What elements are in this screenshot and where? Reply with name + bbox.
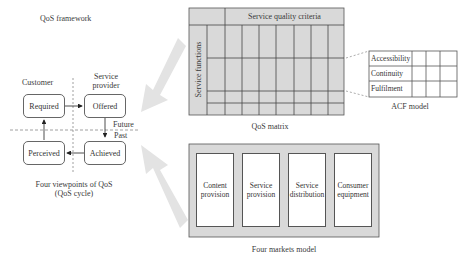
market-label-line2: equipment	[337, 190, 369, 199]
node-offered: Offered	[84, 94, 126, 118]
qos-matrix-outline	[189, 8, 344, 115]
matrix-row-header: Service functions	[194, 30, 203, 110]
market-label-line1: Service	[247, 181, 275, 190]
cycle-caption-line1: Four viewpoints of QoS	[24, 180, 124, 189]
acf-caption: ACF model	[380, 102, 440, 111]
node-required: Required	[23, 94, 65, 118]
market-label-line2: provision	[201, 190, 229, 199]
matrix-to-framework-arrow	[141, 38, 186, 112]
market-content-provision: Contentprovision	[196, 153, 234, 227]
qos-framework-diagram: QoS framework Customer Service provider …	[0, 0, 472, 257]
framework-title: QoS framework	[40, 14, 91, 23]
provider-label: Service provider	[88, 72, 124, 90]
past-label: Past	[114, 131, 127, 140]
market-service-distribution: Servicedistribution	[288, 153, 326, 227]
matrix-header: Service quality criteria	[225, 12, 344, 21]
customer-label: Customer	[22, 78, 53, 87]
market-label-line1: Consumer	[337, 181, 369, 190]
market-service-provision: Serviceprovision	[242, 153, 280, 227]
node-achieved: Achieved	[84, 141, 126, 165]
acf-row-continuity: Continuity	[371, 69, 403, 78]
acf-row-accessibility: Accessibility	[371, 54, 410, 63]
market-label-line2: distribution	[290, 190, 325, 199]
market-label-line1: Service	[290, 181, 325, 190]
matrix-caption: QoS matrix	[240, 122, 300, 131]
node-perceived: Perceived	[23, 141, 65, 165]
cycle-caption: Four viewpoints of QoS (QoS cycle)	[24, 180, 124, 198]
acf-row-fulfilment: Fulfilment	[371, 84, 403, 93]
markets-caption: Four markets model	[244, 245, 324, 254]
market-label-line1: Content	[201, 181, 229, 190]
markets-to-framework-arrow	[141, 145, 188, 228]
connector-graphics	[0, 0, 472, 257]
cycle-caption-line2: (QoS cycle)	[24, 189, 124, 198]
provider-label-line1: Service	[88, 72, 124, 81]
market-label-line2: provision	[247, 190, 275, 199]
provider-label-line2: provider	[88, 81, 124, 90]
market-consumer-equipment: Consumerequipment	[334, 153, 372, 227]
future-label: Future	[113, 120, 134, 129]
